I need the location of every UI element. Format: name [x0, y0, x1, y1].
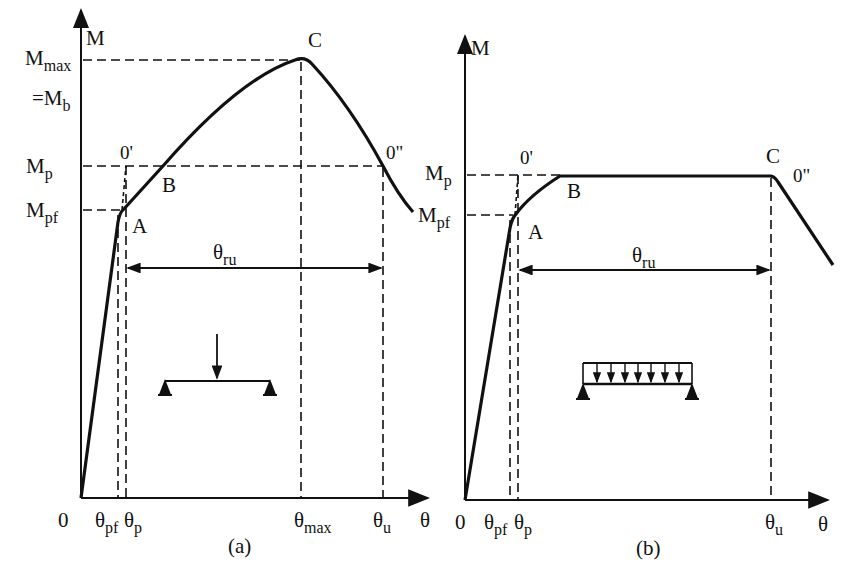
- mpf-label-a: Mpf: [26, 200, 58, 221]
- uniform-load-beam-icon: [576, 363, 699, 399]
- point-a-b: A: [528, 222, 543, 243]
- mmax-label: Mmax: [25, 48, 71, 69]
- theta-max-label: θmax: [294, 510, 332, 531]
- moment-curve-a: [81, 59, 413, 498]
- mpf-label-b: Mpf: [418, 205, 450, 226]
- point-c-b: C: [766, 146, 780, 167]
- point-load-beam-icon: [158, 334, 277, 395]
- guide-lines-a: [83, 60, 383, 498]
- caption-b: (b): [636, 538, 661, 559]
- point-o1-b: 0': [520, 148, 533, 167]
- theta-pf-label-a: θpf: [95, 510, 118, 531]
- theta-pf-label-b: θpf: [484, 512, 507, 533]
- mp-label-b: Mp: [425, 163, 452, 184]
- theta-p-label-b: θp: [514, 512, 532, 533]
- origin-label-b: 0: [455, 512, 466, 533]
- y-axis-label-a: M: [86, 28, 105, 49]
- point-b-b: B: [567, 181, 581, 202]
- point-a-a: A: [132, 216, 147, 237]
- panel-a: [81, 10, 428, 498]
- x-axis-label-a: θ: [420, 510, 430, 531]
- theta-u-label-b: θu: [765, 512, 783, 533]
- x-axis-label-b: θ: [818, 514, 828, 535]
- theta-ru-label-b: θru: [632, 245, 655, 266]
- moment-curve-b: [465, 176, 833, 500]
- caption-a: (a): [228, 536, 251, 557]
- point-c-a: C: [308, 30, 322, 51]
- point-o2-b: 0": [793, 166, 810, 185]
- theta-p-label-a: θp: [124, 510, 142, 531]
- point-b-a: B: [162, 175, 176, 196]
- theta-ru-label-a: θru: [213, 242, 236, 263]
- point-o1-a: 0': [120, 143, 133, 162]
- mp-label-a: Mp: [26, 156, 53, 177]
- y-axis-label-b: M: [471, 38, 490, 59]
- moment-rotation-diagrams: [0, 0, 862, 575]
- theta-u-label-a: θu: [373, 510, 391, 531]
- mb-label: =Mb: [32, 88, 71, 109]
- point-o2-a: 0": [386, 143, 403, 162]
- origin-label-a: 0: [58, 510, 69, 531]
